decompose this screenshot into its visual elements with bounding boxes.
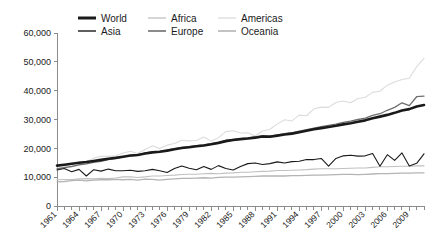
x-tick-label: 1985 bbox=[214, 209, 235, 230]
chart-legend: WorldAfricaAmericasAsiaEuropeOceania bbox=[78, 13, 283, 37]
y-axis: 010,00020,00030,00040,00050,00060,000 bbox=[23, 28, 57, 211]
x-tick-label: 1997 bbox=[302, 209, 323, 230]
series-line-africa bbox=[57, 166, 424, 180]
x-tick-label: 1979 bbox=[170, 209, 191, 230]
x-tick-label: 1967 bbox=[82, 209, 103, 230]
x-tick-label: 1973 bbox=[126, 209, 147, 230]
y-tick-label: 40,000 bbox=[23, 86, 51, 96]
chart-svg: 010,00020,00030,00040,00050,00060,000 19… bbox=[0, 0, 440, 249]
series-line-oceania bbox=[57, 173, 424, 182]
legend-label-world: World bbox=[101, 13, 127, 24]
legend-label-europe: Europe bbox=[171, 26, 204, 37]
y-tick-label: 30,000 bbox=[23, 115, 51, 125]
y-tick-label: 20,000 bbox=[23, 144, 51, 154]
x-tick-label: 1964 bbox=[60, 209, 81, 230]
legend-label-americas: Americas bbox=[241, 13, 283, 24]
x-tick-label: 1961 bbox=[38, 209, 59, 230]
y-tick-label: 50,000 bbox=[23, 57, 51, 67]
line-chart: 010,00020,00030,00040,00050,00060,000 19… bbox=[0, 0, 440, 249]
legend-label-oceania: Oceania bbox=[241, 26, 279, 37]
x-axis: 1961196419671970197319761979198219851988… bbox=[38, 206, 424, 230]
legend-label-asia: Asia bbox=[101, 26, 121, 37]
y-tick-label: 60,000 bbox=[23, 28, 51, 38]
series-lines bbox=[57, 58, 424, 181]
x-tick-label: 1976 bbox=[148, 209, 169, 230]
x-tick-label: 1970 bbox=[104, 209, 125, 230]
x-tick-label: 1994 bbox=[280, 209, 301, 230]
x-tick-label: 1988 bbox=[236, 209, 257, 230]
y-tick-label: 10,000 bbox=[23, 172, 51, 182]
series-line-americas bbox=[57, 58, 424, 168]
legend-label-africa: Africa bbox=[171, 13, 197, 24]
x-tick-label: 2006 bbox=[368, 209, 389, 230]
x-tick-label: 2000 bbox=[324, 209, 345, 230]
x-tick-label: 1982 bbox=[192, 209, 213, 230]
x-tick-label: 2003 bbox=[346, 209, 367, 230]
x-tick-label: 2009 bbox=[390, 209, 411, 230]
x-tick-label: 1991 bbox=[258, 209, 279, 230]
